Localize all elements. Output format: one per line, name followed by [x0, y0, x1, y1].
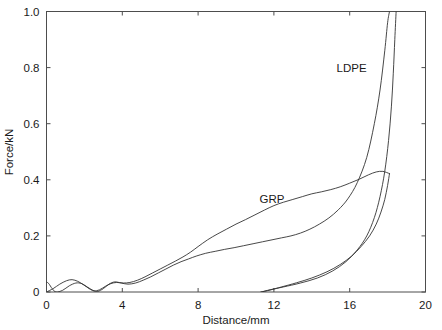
y-tick-label: 0.6 — [24, 118, 40, 130]
y-tick-labels-group: 00.20.40.60.81.0 — [24, 6, 41, 299]
series-label-grp: GRP — [260, 193, 285, 205]
series-grp — [47, 171, 390, 292]
series-ldpe — [47, 12, 397, 293]
loading-curve — [47, 12, 390, 293]
x-tick-label: 0 — [43, 299, 49, 311]
y-tick-label: 1.0 — [24, 6, 40, 18]
y-axis-title: Force/kN — [3, 129, 15, 176]
loading-curve — [47, 171, 390, 292]
x-tick-label: 8 — [195, 299, 201, 311]
y-tick-label: 0 — [33, 286, 39, 298]
y-tick-label: 0.4 — [24, 174, 41, 186]
force-distance-chart: 048121620 00.20.40.60.81.0 LDPEGRP Dista… — [0, 0, 442, 330]
x-tick-label: 12 — [268, 299, 281, 311]
y-tick-label: 0.2 — [24, 230, 40, 242]
x-axis-title: Distance/mm — [202, 314, 269, 326]
series-label-ldpe: LDPE — [337, 62, 367, 74]
x-tick-label: 20 — [419, 299, 432, 311]
x-tick-label: 16 — [343, 299, 356, 311]
x-tick-labels-group: 048121620 — [43, 299, 432, 311]
series-annotations-group: LDPEGRP — [260, 62, 367, 205]
chart-figure: 048121620 00.20.40.60.81.0 LDPEGRP Dista… — [0, 0, 442, 330]
y-tick-label: 0.8 — [24, 62, 40, 74]
unloading-curve — [262, 12, 397, 293]
data-curves-group — [47, 12, 397, 293]
x-tick-label: 4 — [119, 299, 126, 311]
